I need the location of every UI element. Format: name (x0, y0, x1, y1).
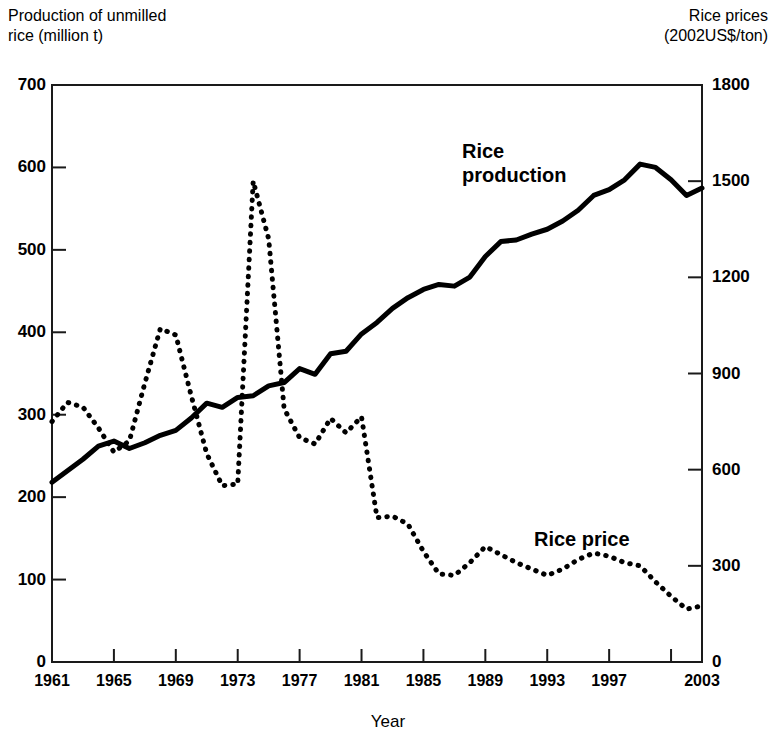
x-tick-1973: 1973 (220, 672, 256, 690)
series-label-price: Rice price (534, 528, 630, 552)
x-tick-1965: 1965 (96, 672, 132, 690)
x-tick-1961: 1961 (34, 672, 70, 690)
x-tick-1969: 1969 (158, 672, 194, 690)
x-tick-1981: 1981 (344, 672, 380, 690)
x-tick-1977: 1977 (282, 672, 318, 690)
x-tick-2003: 2003 (684, 672, 720, 690)
rice-production-price-chart: Production of unmilled rice (million t) … (0, 0, 776, 750)
x-tick-1985: 1985 (406, 672, 442, 690)
series-label-production: Rice production (462, 140, 566, 187)
x-tick-1997: 1997 (591, 672, 627, 690)
x-axis-labels: 1961196519691973197719811985198919931997… (0, 0, 776, 750)
x-axis-title: Year (0, 712, 776, 732)
x-tick-1993: 1993 (529, 672, 565, 690)
x-tick-1989: 1989 (468, 672, 504, 690)
